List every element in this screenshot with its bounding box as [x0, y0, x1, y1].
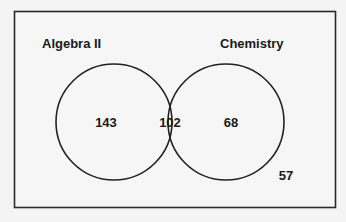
- algebra-label: Algebra II: [42, 36, 101, 51]
- chemistry-only-count: 68: [224, 115, 238, 130]
- algebra-only-count: 143: [95, 115, 117, 130]
- outside-count: 57: [279, 168, 293, 183]
- chemistry-label: Chemistry: [220, 36, 284, 51]
- intersection-count: 102: [159, 115, 181, 130]
- venn-diagram: Algebra II Chemistry 143 102 68 57: [0, 0, 346, 222]
